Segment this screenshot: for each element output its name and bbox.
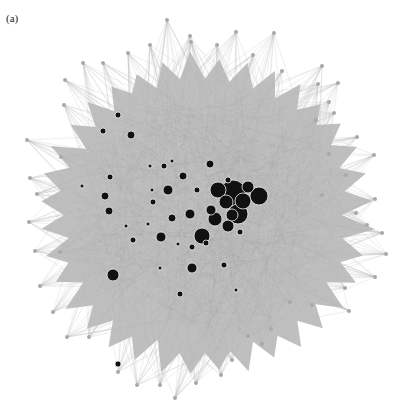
hub-node <box>226 209 238 221</box>
hub-node <box>235 193 251 209</box>
peripheral-node <box>25 138 29 142</box>
peripheral-node <box>310 303 314 307</box>
peripheral-node <box>251 53 255 57</box>
peripheral-node <box>38 284 42 288</box>
peripheral-node <box>260 342 264 346</box>
peripheral-node <box>272 31 276 35</box>
hub-node <box>101 192 109 200</box>
peripheral-node <box>189 40 193 44</box>
hub-node <box>124 224 128 228</box>
hub-node <box>221 262 227 268</box>
network-graph <box>0 0 401 403</box>
hub-node <box>127 131 135 139</box>
peripheral-node <box>269 327 273 331</box>
hub-node <box>105 207 113 215</box>
peripheral-node <box>63 78 67 82</box>
hub-node <box>168 214 176 222</box>
hub-node <box>158 266 162 270</box>
peripheral-node <box>314 118 318 122</box>
hub-node <box>206 160 214 168</box>
peripheral-node <box>344 173 348 177</box>
hub-node <box>115 361 121 367</box>
hub-node <box>107 269 119 281</box>
peripheral-node <box>246 334 250 338</box>
peripheral-node <box>288 300 292 304</box>
peripheral-node <box>230 358 234 362</box>
peripheral-node <box>27 220 31 224</box>
peripheral-node <box>234 30 238 34</box>
hub-node <box>161 163 167 169</box>
peripheral-node <box>327 100 331 104</box>
peripheral-node <box>365 223 369 227</box>
peripheral-node <box>354 211 358 215</box>
peripheral-node <box>320 64 324 68</box>
peripheral-node <box>380 231 384 235</box>
peripheral-node <box>219 373 223 377</box>
hub-node <box>107 174 113 180</box>
hub-node <box>148 164 152 168</box>
peripheral-node <box>355 135 359 139</box>
hub-node <box>170 159 174 163</box>
peripheral-node <box>58 250 62 254</box>
hub-node <box>189 244 195 250</box>
peripheral-node <box>116 370 120 374</box>
peripheral-node <box>327 152 331 156</box>
peripheral-node <box>126 51 130 55</box>
peripheral-node <box>35 192 39 196</box>
hub-node <box>80 184 84 188</box>
peripheral-node <box>373 197 377 201</box>
peripheral-node <box>62 103 66 107</box>
hub-node <box>146 222 150 226</box>
hub-node <box>156 232 166 242</box>
hub-node <box>115 112 121 118</box>
hub-node <box>234 288 238 292</box>
hub-node <box>225 177 231 183</box>
peripheral-node <box>332 111 336 115</box>
peripheral-node <box>28 176 32 180</box>
hub-node <box>194 187 200 193</box>
peripheral-node <box>135 383 139 387</box>
peripheral-node <box>316 82 320 86</box>
peripheral-node <box>280 69 284 73</box>
peripheral-node <box>33 249 37 253</box>
hub-node <box>203 240 209 246</box>
peripheral-node <box>148 43 152 47</box>
peripheral-node <box>347 309 351 313</box>
peripheral-node <box>194 381 198 385</box>
peripheral-node <box>51 310 55 314</box>
hub-node <box>100 128 106 134</box>
hub-node <box>130 237 136 243</box>
peripheral-node <box>373 275 377 279</box>
peripheral-node <box>336 81 340 85</box>
peripheral-node <box>173 396 177 400</box>
hub-node <box>150 188 154 192</box>
hub-node <box>179 172 187 180</box>
hub-node <box>150 199 156 205</box>
hub-node <box>237 229 243 235</box>
peripheral-node <box>343 286 347 290</box>
hub-node <box>176 242 180 246</box>
hub-node <box>222 220 234 232</box>
peripheral-node <box>65 335 69 339</box>
peripheral-node <box>215 43 219 47</box>
hub-node <box>185 209 195 219</box>
hub-node <box>219 195 233 209</box>
hub-node <box>242 181 254 193</box>
hub-node <box>177 291 183 297</box>
peripheral-node <box>320 193 324 197</box>
peripheral-node <box>165 18 169 22</box>
peripheral-node <box>87 335 91 339</box>
hub-node <box>187 263 197 273</box>
peripheral-node <box>81 61 85 65</box>
hub-node <box>163 185 173 195</box>
peripheral-node <box>158 383 162 387</box>
peripheral-node <box>101 61 105 65</box>
hub-node <box>206 205 216 215</box>
peripheral-node <box>188 34 192 38</box>
peripheral-node <box>59 155 63 159</box>
peripheral-node <box>384 252 388 256</box>
peripheral-node <box>372 153 376 157</box>
